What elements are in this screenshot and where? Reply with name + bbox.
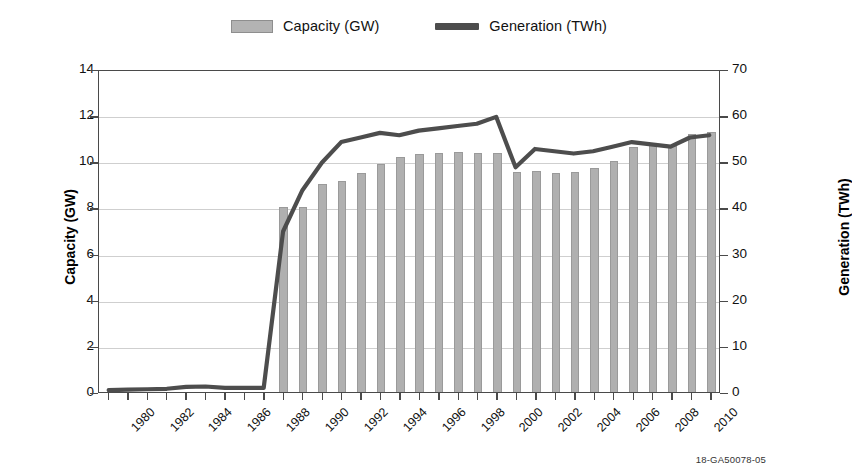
- y-tick-mark-right: [720, 116, 728, 117]
- x-tick-mark: [341, 393, 342, 400]
- x-tick-mark: [360, 393, 361, 400]
- x-tick-mark: [263, 393, 264, 400]
- y-tick-label-left: 6: [54, 246, 94, 261]
- x-tick-mark: [322, 393, 323, 400]
- x-tick-mark: [574, 393, 575, 400]
- y-tick-label-left: 10: [54, 153, 94, 168]
- x-tick-mark: [633, 393, 634, 400]
- x-tick-mark: [147, 393, 148, 400]
- figure-caption: 18-GA50078-05: [696, 454, 766, 465]
- y-tick-label-left: 2: [54, 338, 94, 353]
- x-tick-mark: [594, 393, 595, 400]
- x-tick-mark: [691, 393, 692, 400]
- x-tick-label: 2008: [672, 405, 702, 435]
- x-tick-mark: [166, 393, 167, 400]
- y-tick-mark-left: [90, 255, 98, 256]
- y-tick-mark-left: [90, 347, 98, 348]
- y-tick-label-right: 30: [732, 246, 772, 261]
- y-tick-label-right: 10: [732, 338, 772, 353]
- y-tick-mark-left: [90, 70, 98, 71]
- x-tick-mark: [477, 393, 478, 400]
- x-tick-mark: [458, 393, 459, 400]
- y-tick-label-right: 40: [732, 199, 772, 214]
- y-tick-mark-right: [720, 255, 728, 256]
- x-tick-mark: [652, 393, 653, 400]
- y-axis-title-right: Generation (TWh): [836, 178, 852, 295]
- y-tick-mark-right: [720, 301, 728, 302]
- y-tick-label-right: 0: [732, 384, 772, 399]
- y-tick-mark-right: [720, 347, 728, 348]
- x-tick-mark: [496, 393, 497, 400]
- legend-label-generation: Generation (TWh): [489, 18, 607, 34]
- x-tick-mark: [380, 393, 381, 400]
- x-tick-label: 2006: [633, 405, 663, 435]
- x-tick-mark: [244, 393, 245, 400]
- x-tick-mark: [516, 393, 517, 400]
- x-tick-label: 2010: [711, 405, 741, 435]
- x-tick-mark: [555, 393, 556, 400]
- x-tick-label: 1998: [478, 405, 508, 435]
- x-tick-label: 2004: [594, 405, 624, 435]
- line-series-generation: [99, 71, 719, 392]
- y-tick-label-right: 70: [732, 61, 772, 76]
- x-tick-label: 1996: [439, 405, 469, 435]
- x-tick-mark: [224, 393, 225, 400]
- line-swatch-icon: [435, 23, 479, 30]
- x-tick-label: 1990: [322, 405, 352, 435]
- bar-swatch-icon: [231, 20, 273, 33]
- y-tick-mark-right: [720, 393, 728, 394]
- x-tick-mark: [283, 393, 284, 400]
- x-tick-label: 1984: [206, 405, 236, 435]
- y-tick-label-left: 14: [54, 61, 94, 76]
- y-tick-mark-right: [720, 162, 728, 163]
- y-tick-mark-right: [720, 70, 728, 71]
- plot-area: [98, 70, 720, 393]
- x-tick-mark: [127, 393, 128, 400]
- x-tick-mark: [419, 393, 420, 400]
- x-tick-mark: [671, 393, 672, 400]
- legend-label-capacity: Capacity (GW): [283, 18, 379, 34]
- y-tick-mark-left: [90, 393, 98, 394]
- y-tick-label-right: 60: [732, 107, 772, 122]
- y-tick-label-right: 50: [732, 153, 772, 168]
- x-tick-label: 1982: [167, 405, 197, 435]
- legend-item-capacity: Capacity (GW): [231, 18, 379, 34]
- y-tick-label-left: 12: [54, 107, 94, 122]
- generation-line: [109, 117, 710, 390]
- x-tick-mark: [613, 393, 614, 400]
- x-tick-label: 2002: [555, 405, 585, 435]
- y-tick-label-right: 20: [732, 292, 772, 307]
- legend-item-generation: Generation (TWh): [435, 18, 607, 34]
- x-tick-mark: [438, 393, 439, 400]
- chart-legend: Capacity (GW) Generation (TWh): [0, 18, 838, 34]
- x-tick-mark: [302, 393, 303, 400]
- x-tick-mark: [535, 393, 536, 400]
- y-tick-label-left: 0: [54, 384, 94, 399]
- x-tick-mark: [185, 393, 186, 400]
- y-tick-mark-left: [90, 208, 98, 209]
- y-tick-mark-right: [720, 208, 728, 209]
- x-tick-mark: [399, 393, 400, 400]
- y-tick-label-left: 8: [54, 199, 94, 214]
- x-tick-label: 1992: [361, 405, 391, 435]
- y-tick-mark-left: [90, 301, 98, 302]
- y-tick-label-left: 4: [54, 292, 94, 307]
- x-tick-label: 2000: [517, 405, 547, 435]
- x-tick-label: 1988: [283, 405, 313, 435]
- y-tick-mark-left: [90, 162, 98, 163]
- x-tick-mark: [108, 393, 109, 400]
- x-tick-mark: [710, 393, 711, 400]
- y-tick-mark-left: [90, 116, 98, 117]
- x-tick-label: 1986: [244, 405, 274, 435]
- x-tick-mark: [205, 393, 206, 400]
- x-tick-label: 1994: [400, 405, 430, 435]
- x-tick-label: 1980: [128, 405, 158, 435]
